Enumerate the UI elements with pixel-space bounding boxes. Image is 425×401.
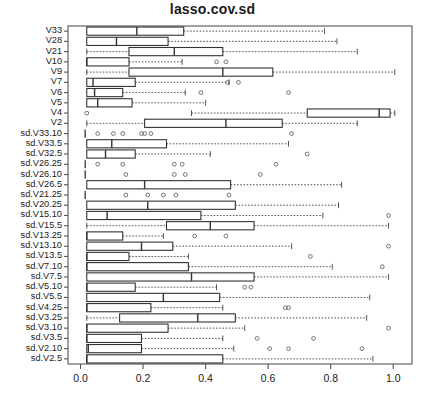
outlier-point [308,255,312,259]
outlier-point [312,336,316,340]
box [87,263,189,271]
y-tick-label: V2 [51,119,62,128]
outlier-point [172,162,176,166]
y-tick-label: V4 [51,108,62,117]
outlier-point [199,91,203,95]
y-tick-label: V21 [46,47,62,56]
box [87,99,132,107]
y-tick-label: sd.V4.25 [26,303,62,312]
y-tick-label: sd.V33.5 [26,139,62,148]
box [87,345,142,353]
outlier-point [172,173,176,177]
box [87,273,254,281]
outlier-point [124,173,128,177]
outlier-point [146,193,150,197]
outlier-point [287,91,291,95]
box [87,304,151,312]
y-tick-label: sd.V5.5 [31,293,62,302]
outlier-point [268,347,272,351]
y-tick-label: sd.V33.10 [21,129,62,138]
y-tick-label: sd.V7.10 [26,262,62,271]
outlier-point [287,347,291,351]
y-tick-label: sd.V2.10 [26,344,62,353]
box [87,201,236,209]
outlier-point [193,234,197,238]
outlier-point [161,193,165,197]
y-tick-label: sd.V26.5 [26,180,62,189]
box [87,78,135,86]
outlier-point [180,162,184,166]
outlier-point [124,193,128,197]
box [87,242,173,250]
y-tick-label: sd.V26.10 [21,170,62,179]
y-tick-label: V28 [46,37,62,46]
box [307,109,390,117]
outlier-point [249,285,253,289]
outlier-point [174,193,178,197]
y-tick-label: V33 [46,27,62,36]
box [120,314,236,322]
y-tick-label: sd.V7.5 [31,272,62,281]
outlier-point [227,193,231,197]
boxplot-figure: lasso.cov.sd 0.00.20.40.60.81.0V33V28V21… [0,0,425,401]
y-tick-label: V7 [51,78,62,87]
y-tick-label: V10 [46,57,62,66]
outlier-point [387,214,391,218]
x-tick-label: 0.0 [73,372,88,384]
box [145,119,283,127]
x-tick-label: 0.8 [323,372,338,384]
box [87,334,142,342]
box [87,355,223,363]
outlier-point [111,132,115,136]
box [129,68,273,76]
y-tick-label: V9 [51,67,62,76]
y-tick-label: sd.V3.5 [31,334,62,343]
outlier-point [274,162,278,166]
outlier-point [183,173,187,177]
outlier-point [224,234,228,238]
outlier-point [243,285,247,289]
box [87,37,168,45]
outlier-point [149,132,153,136]
outlier-point [360,347,364,351]
box [87,150,135,158]
y-tick-label: sd.V15.10 [21,211,62,220]
outlier-point [380,265,384,269]
x-tick-label: 0.6 [261,372,276,384]
box [129,48,223,56]
outlier-point [258,173,262,177]
x-tick-label: 0.4 [198,372,213,384]
y-tick-label: sd.V2.5 [31,354,62,363]
y-tick-label: sd.V15.5 [26,221,62,230]
y-tick-label: sd.V21.25 [21,190,62,199]
outlier-point [290,132,294,136]
y-tick-label: sd.V13.5 [26,252,62,261]
y-tick-label: sd.V26.25 [21,160,62,169]
outlier-point [387,244,391,248]
y-tick-label: sd.V5.10 [26,283,62,292]
box [87,252,129,260]
box [87,27,184,35]
outlier-point [237,80,241,84]
y-tick-label: sd.V32.5 [26,149,62,158]
box [87,88,123,96]
box [87,232,123,240]
y-tick-label: sd.V3.25 [26,313,62,322]
x-tick-label: 0.2 [136,372,151,384]
y-tick-label: sd.V20.25 [21,201,62,210]
outlier-point [255,336,259,340]
box [87,211,201,219]
y-tick-label: sd.V3.10 [26,324,62,333]
outlier-point [224,60,228,64]
box [87,140,167,148]
outlier-point [85,111,89,115]
y-tick-label: V6 [51,88,62,97]
outlier-point [215,60,219,64]
y-tick-label: sd.V13.25 [21,231,62,240]
boxplot-canvas [0,0,425,401]
outlier-point [305,152,309,156]
outlier-point [121,132,125,136]
x-tick-label: 1.0 [386,372,401,384]
outlier-point [96,132,100,136]
box [87,283,135,291]
